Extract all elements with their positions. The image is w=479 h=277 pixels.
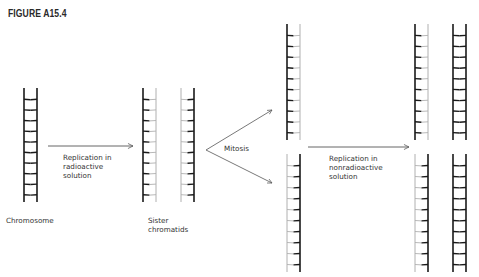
daughter-chromosome-bottom xyxy=(287,154,300,272)
chromosome-ladder xyxy=(24,88,37,202)
label-replication-nonradioactive: Replication in nonradioactive solution xyxy=(329,154,383,181)
final-chromatid-top-left xyxy=(415,24,428,140)
replication-diagram xyxy=(0,0,479,277)
sister-chromatid-ladder-1 xyxy=(143,88,156,202)
sister-chromatid-ladder-2 xyxy=(181,88,194,202)
final-chromatid-bottom-right xyxy=(453,154,466,272)
label-mitosis: Mitosis xyxy=(224,144,249,153)
final-chromatid-bottom-left xyxy=(415,154,428,272)
label-sister-chromatids: Sister chromatids xyxy=(148,216,188,234)
label-replication-radioactive: Replication in radioactive solution xyxy=(63,153,112,180)
final-chromatid-top-right xyxy=(453,24,466,140)
label-chromosome: Chromosome xyxy=(6,216,54,225)
daughter-chromosome-top xyxy=(287,24,300,140)
arrow-mitosis-down xyxy=(206,150,272,183)
